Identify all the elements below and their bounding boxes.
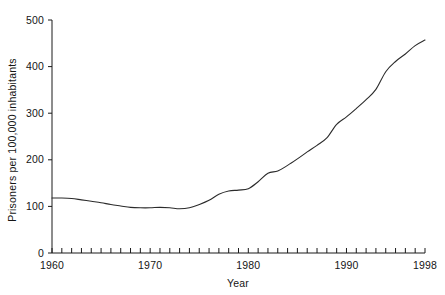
x-tick-label-1970: 1970 (138, 259, 162, 271)
x-tick-label-1960: 1960 (40, 259, 64, 271)
y-tick-label-100: 100 (26, 200, 44, 212)
y-tick-label-400: 400 (26, 60, 44, 72)
line-chart: 0100200300400500 19601970198019901998 Ye… (0, 0, 445, 295)
x-axis-title: Year (227, 277, 249, 289)
y-axis-title: Prisoners per 100,000 inhabitants (6, 58, 18, 222)
y-tick-label-300: 300 (26, 107, 44, 119)
chart-background (0, 0, 445, 295)
y-tick-label-500: 500 (26, 14, 44, 26)
y-tick-label-200: 200 (26, 153, 44, 165)
x-tick-label-1998: 1998 (413, 259, 437, 271)
x-tick-label-1990: 1990 (334, 259, 358, 271)
chart-container: 0100200300400500 19601970198019901998 Ye… (0, 0, 445, 295)
x-tick-label-1980: 1980 (236, 259, 260, 271)
y-tick-label-0: 0 (38, 247, 44, 259)
